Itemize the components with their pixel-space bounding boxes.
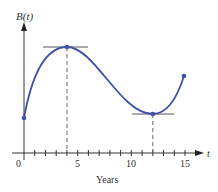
x-axis-var-label: t (207, 148, 210, 159)
point-min (151, 112, 156, 117)
tick-label-0: 0 (16, 158, 21, 169)
tick-label-15: 15 (180, 158, 190, 169)
tick-label-10: 10 (126, 158, 136, 169)
curve-b-of-t (24, 47, 184, 118)
point-end (182, 74, 187, 79)
tick-label-5: 5 (75, 158, 80, 169)
y-axis-arrow-icon (21, 22, 27, 31)
point-start (22, 116, 27, 121)
y-axis-label: B(t) (16, 10, 33, 23)
x-axis-title: Years (96, 174, 118, 185)
point-max (65, 45, 70, 50)
x-axis-arrow-icon (195, 150, 204, 156)
chart: B(t) t 0 5 10 15 Years (0, 0, 218, 192)
